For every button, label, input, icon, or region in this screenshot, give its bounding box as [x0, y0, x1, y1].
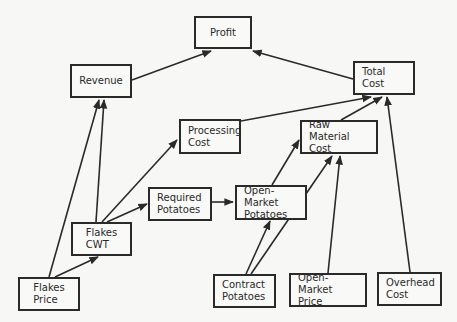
node-raw-material-cost: Raw Material Cost — [300, 120, 378, 154]
influence-diagram: ProfitRevenueTotal CostProcessing CostRa… — [0, 0, 457, 322]
node-processing-cost: Processing Cost — [179, 119, 241, 154]
node-total-cost: Total Cost — [353, 61, 415, 95]
node-open-market-potatoes: Open-Market Potatoes — [235, 185, 307, 220]
edge-flakes-cwt-to-required-potatoes — [107, 204, 147, 222]
node-label: Profit — [210, 27, 236, 39]
node-overhead-cost: Overhead Cost — [377, 272, 442, 306]
node-required-potatoes: Required Potatoes — [148, 187, 212, 221]
node-contract-potatoes: Contract Potatoes — [213, 274, 276, 308]
node-label: Open-Market Price — [298, 272, 358, 308]
node-label: Processing Cost — [188, 125, 241, 149]
node-label: Open-Market Potatoes — [244, 185, 298, 221]
node-label: Total Cost — [362, 66, 406, 90]
edge-contract-potatoes-to-open-market-potatoes — [246, 221, 270, 274]
node-flakes-cwt: Flakes CWT — [71, 222, 132, 256]
node-profit: Profit — [194, 16, 252, 49]
node-flakes-price: Flakes Price — [18, 277, 80, 311]
node-label: Contract Potatoes — [222, 279, 265, 303]
node-label: Raw Material Cost — [309, 119, 369, 155]
edge-total-cost-to-profit — [253, 51, 353, 79]
edge-open-market-potatoes-to-raw-material-cost — [272, 140, 299, 185]
node-revenue: Revenue — [70, 64, 132, 98]
node-label: Flakes CWT — [86, 227, 117, 251]
edge-overhead-cost-to-total-cost — [387, 97, 410, 272]
node-label: Required Potatoes — [157, 192, 202, 216]
edge-revenue-to-profit — [132, 51, 211, 80]
node-label: Flakes Price — [33, 282, 64, 306]
edge-flakes-cwt-to-revenue — [96, 100, 104, 222]
edge-processing-cost-to-total-cost — [241, 97, 371, 121]
node-label: Revenue — [79, 75, 123, 87]
node-open-market-price: Open-Market Price — [289, 273, 367, 307]
node-label: Overhead Cost — [386, 277, 435, 301]
edge-flakes-price-to-flakes-cwt — [55, 257, 98, 277]
edge-open-market-price-to-raw-material-cost — [328, 156, 340, 273]
edge-raw-material-cost-to-total-cost — [341, 97, 382, 120]
